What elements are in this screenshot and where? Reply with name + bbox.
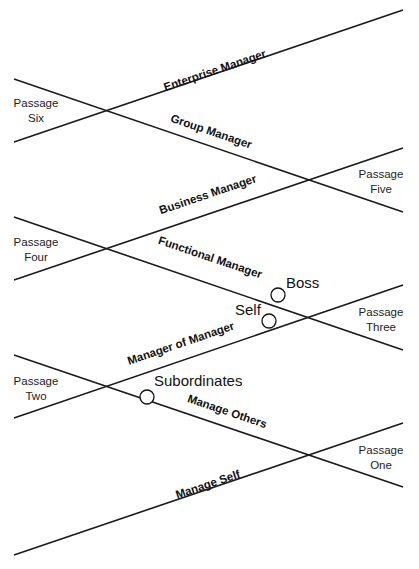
passage-six: Passage Six <box>14 97 59 124</box>
level-label-manager-of-manager: Manager of Manager <box>126 319 236 366</box>
passage-five: Passage Five <box>359 168 404 195</box>
passage-one-line1: Passage <box>359 444 404 456</box>
passage-one-line2: One <box>370 459 392 471</box>
passage-four-line1: Passage <box>14 236 59 248</box>
leadership-pipeline-diagram: Enterprise Manager Group Manager Busines… <box>0 0 419 569</box>
role-label-self: Self <box>235 301 262 318</box>
boss-marker-icon <box>271 288 285 302</box>
level-label-manage-self: Manage Self <box>174 468 242 501</box>
level-label-manage-others: Manage Others <box>186 392 269 430</box>
passage-four-line2: Four <box>24 251 48 263</box>
role-label-boss: Boss <box>286 274 319 291</box>
self-marker-icon <box>262 314 276 328</box>
passage-six-line1: Passage <box>14 97 59 109</box>
role-label-subordinates: Subordinates <box>154 372 242 389</box>
level-label-functional-manager: Functional Manager <box>157 234 264 280</box>
passage-four: Passage Four <box>14 236 59 263</box>
level-label-business-manager: Business Manager <box>158 172 259 216</box>
passage-two-line1: Passage <box>14 375 59 387</box>
passage-six-line2: Six <box>28 112 44 124</box>
passage-three: Passage Three <box>359 306 404 333</box>
passage-two: Passage Two <box>14 375 59 402</box>
passage-three-line1: Passage <box>359 306 404 318</box>
passage-five-line1: Passage <box>359 168 404 180</box>
passage-two-line2: Two <box>25 390 46 402</box>
level-label-group-manager: Group Manager <box>169 112 254 151</box>
level-label-enterprise-manager: Enterprise Manager <box>162 47 268 93</box>
passage-three-line2: Three <box>366 321 396 333</box>
passage-five-line2: Five <box>370 183 392 195</box>
subordinates-marker-icon <box>140 390 154 404</box>
passage-one: Passage One <box>359 444 404 471</box>
